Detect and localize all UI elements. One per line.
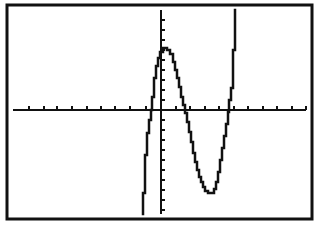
calculator-graph-screen — [0, 0, 323, 230]
graph-canvas — [0, 0, 323, 230]
